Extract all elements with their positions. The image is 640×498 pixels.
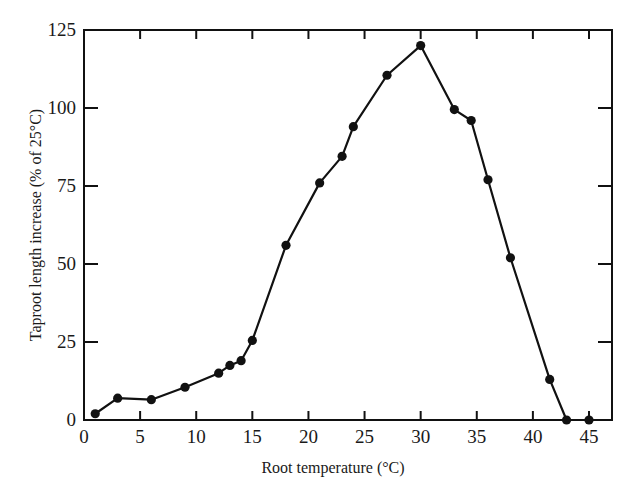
data-point-marker (382, 71, 391, 80)
y-axis-label: Taproot length increase (% of 25°C) (27, 109, 45, 341)
data-point-marker (113, 394, 122, 403)
data-point-marker (214, 369, 223, 378)
x-axis-label: Root temperature (°C) (261, 459, 404, 477)
x-tick-label: 25 (355, 426, 374, 447)
x-tick-label: 0 (79, 426, 89, 447)
x-tick-label: 15 (243, 426, 262, 447)
data-point-marker (281, 241, 290, 250)
data-point-marker (450, 105, 459, 114)
data-point-marker (416, 41, 425, 50)
x-tick-label: 20 (299, 426, 318, 447)
data-point-marker (225, 361, 234, 370)
data-point-marker (338, 152, 347, 161)
data-point-marker (562, 415, 571, 424)
y-tick-label: 75 (57, 175, 76, 196)
x-tick-label: 40 (523, 426, 542, 447)
data-point-marker (506, 253, 515, 262)
data-point-marker (248, 336, 257, 345)
series-line (95, 46, 589, 420)
x-tick-label: 5 (135, 426, 145, 447)
axis-ticks (84, 30, 612, 420)
y-tick-labels: 0255075100125 (48, 19, 77, 430)
plot-frame (84, 30, 612, 420)
y-tick-label: 25 (57, 331, 76, 352)
x-tick-label: 30 (411, 426, 430, 447)
data-point-marker (91, 409, 100, 418)
y-tick-label: 100 (48, 97, 77, 118)
y-tick-label: 125 (48, 19, 77, 40)
x-tick-label: 35 (467, 426, 486, 447)
data-point-marker (467, 116, 476, 125)
plot-border (84, 30, 612, 420)
data-point-marker (147, 395, 156, 404)
x-tick-label: 10 (187, 426, 206, 447)
y-tick-label: 50 (57, 253, 76, 274)
data-point-marker (315, 178, 324, 187)
data-point-marker (483, 175, 492, 184)
data-point-marker (237, 356, 246, 365)
y-tick-label: 0 (67, 409, 77, 430)
x-tick-label: 45 (580, 426, 599, 447)
data-point-marker (180, 383, 189, 392)
data-point-marker (349, 122, 358, 131)
data-point-marker (584, 415, 593, 424)
data-point-marker (545, 375, 554, 384)
data-series (91, 41, 594, 425)
x-tick-labels: 051015202530354045 (79, 426, 598, 447)
chart: 051015202530354045 0255075100125 Root te… (0, 0, 640, 498)
